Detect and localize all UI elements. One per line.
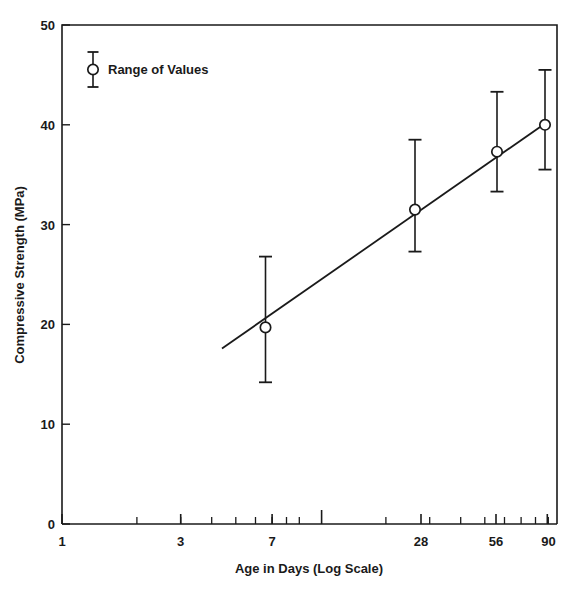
legend-label-range-of-values: Range of Values	[108, 62, 208, 77]
legend-marker-range-of-values	[88, 52, 99, 87]
x-axis-major-ticks	[62, 510, 547, 524]
data-point-7-days	[259, 257, 272, 383]
y-axis-title: Compressive Strength (MPa)	[12, 186, 27, 364]
plot-frame	[62, 25, 557, 524]
data-point-56-days	[491, 92, 504, 192]
x-tick-label-90: 90	[541, 534, 555, 549]
x-axis-title: Age in Days (Log Scale)	[235, 561, 383, 576]
y-axis-tick-labels: 50 40 30 20 10 0	[41, 18, 55, 532]
x-tick-label-3: 3	[177, 534, 184, 549]
x-tick-label-56: 56	[489, 534, 503, 549]
chart-plot-svg: 50 40 30 20 10 0 Compressive Strength (M…	[0, 0, 576, 593]
data-point-90-days	[539, 70, 552, 170]
y-tick-label-20: 20	[41, 317, 55, 332]
y-tick-label-50: 50	[41, 18, 55, 33]
y-axis-ticks	[62, 25, 70, 524]
y-tick-label-40: 40	[41, 118, 55, 133]
y-tick-label-30: 30	[41, 218, 55, 233]
chart-container: 50 40 30 20 10 0 Compressive Strength (M…	[0, 0, 576, 593]
y-tick-label-10: 10	[41, 417, 55, 432]
y-tick-label-0: 0	[48, 517, 55, 532]
x-axis-minor-ticks	[137, 517, 548, 524]
x-axis-tick-labels: 1 3 7 28 56 90	[58, 534, 555, 549]
chart-legend: Range of Values	[88, 52, 209, 87]
x-tick-label-28: 28	[414, 534, 428, 549]
x-tick-label-7: 7	[268, 534, 275, 549]
data-point-28-days	[409, 140, 422, 252]
x-tick-label-1: 1	[58, 534, 65, 549]
